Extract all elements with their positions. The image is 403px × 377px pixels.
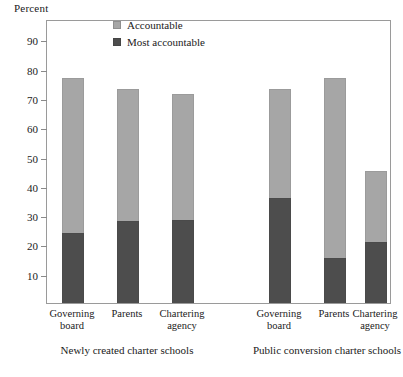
- y-axis-tick-label: 30: [27, 212, 38, 223]
- y-axis-tick-label: 20: [27, 241, 38, 252]
- legend-label-most-accountable: Most accountable: [127, 35, 205, 49]
- bar-segment-most-accountable[interactable]: [172, 220, 194, 303]
- y-axis-tick-label: 60: [27, 124, 38, 135]
- y-axis-tick-label: 80: [27, 65, 38, 76]
- bar-segment-accountable[interactable]: [117, 89, 139, 221]
- y-axis-tick-mark: [41, 246, 47, 247]
- y-axis-tick-label: 50: [27, 153, 38, 164]
- x-axis-category-label-line: Chartering: [145, 308, 219, 320]
- y-axis-tick-mark: [41, 71, 47, 72]
- y-axis-tick-mark: [41, 100, 47, 101]
- y-axis-tick-label: 40: [27, 182, 38, 193]
- y-axis-tick-mark: [41, 276, 47, 277]
- bar-stack[interactable]: [117, 89, 139, 303]
- y-axis-tick-mark: [41, 129, 47, 130]
- bar-segment-most-accountable[interactable]: [269, 198, 291, 303]
- y-axis-tick-label: 70: [27, 95, 38, 106]
- bar-segment-accountable[interactable]: [172, 94, 194, 220]
- y-axis-tick-mark: [41, 159, 47, 160]
- bar-segment-accountable[interactable]: [324, 78, 346, 258]
- legend-swatch-icon-most-accountable: [113, 38, 121, 46]
- x-axis-group-label: Newly created charter schools: [61, 344, 194, 356]
- legend-item-most-accountable: Most accountable: [113, 35, 205, 49]
- y-axis-tick-mark: [41, 217, 47, 218]
- x-axis-category-label-line: Chartering: [338, 308, 403, 320]
- x-axis-category-label-line: board: [35, 320, 109, 332]
- bar-stack[interactable]: [365, 171, 387, 303]
- y-axis-tick-mark: [41, 188, 47, 189]
- legend-swatch-icon-accountable: [113, 21, 121, 29]
- bar-segment-most-accountable[interactable]: [62, 233, 84, 303]
- x-axis-category-label-line: agency: [145, 320, 219, 332]
- legend-item-accountable: Accountable: [113, 18, 205, 32]
- bar-segment-accountable[interactable]: [62, 78, 84, 233]
- x-axis-category-label: Charteringagency: [145, 308, 219, 332]
- y-axis-tick-mark: [41, 41, 47, 42]
- bar-segment-accountable[interactable]: [269, 89, 291, 197]
- bar-segment-accountable[interactable]: [365, 171, 387, 241]
- bar-segment-most-accountable[interactable]: [324, 258, 346, 303]
- y-axis-tick-label: 90: [27, 36, 38, 47]
- bar-stack[interactable]: [269, 89, 291, 303]
- bar-stack[interactable]: [62, 78, 84, 303]
- bar-stack[interactable]: [172, 94, 194, 303]
- y-axis-title: Percent: [14, 2, 48, 14]
- bar-stack[interactable]: [324, 78, 346, 303]
- x-axis-category-label-line: board: [242, 320, 316, 332]
- x-axis-group-label: Public conversion charter schools: [253, 344, 401, 356]
- x-axis-category-label: Charteringagency: [338, 308, 403, 332]
- chart-legend: Accountable Most accountable: [113, 18, 205, 52]
- plot-area: 102030405060708090: [46, 20, 391, 304]
- legend-label-accountable: Accountable: [127, 18, 183, 32]
- bar-segment-most-accountable[interactable]: [117, 221, 139, 303]
- bar-segment-most-accountable[interactable]: [365, 242, 387, 303]
- x-axis-category-label-line: agency: [338, 320, 403, 332]
- y-axis-tick-label: 10: [27, 270, 38, 281]
